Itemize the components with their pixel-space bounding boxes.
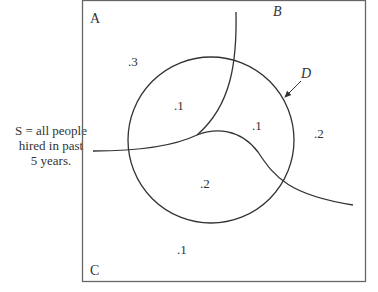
venn-diagram: A B C D .3 .1 .1 .2 .2 .1 <box>0 0 378 292</box>
boundary-right-curve <box>197 131 353 205</box>
region-c-inside: .2 <box>200 176 210 191</box>
region-c-outside: .1 <box>177 242 187 257</box>
boundary-top-curve <box>197 12 236 135</box>
sample-space-frame <box>83 1 366 282</box>
region-b-inside: .1 <box>252 118 262 133</box>
region-a-inside: .1 <box>174 98 184 113</box>
region-b-outside: .2 <box>314 126 324 141</box>
label-b: B <box>273 4 282 19</box>
region-a-outside: .3 <box>128 54 138 69</box>
label-a: A <box>90 11 101 26</box>
boundary-left-curve <box>93 135 197 151</box>
label-c: C <box>90 263 99 278</box>
circle-d <box>128 57 294 223</box>
label-d: D <box>300 66 311 81</box>
d-arrow <box>285 81 301 97</box>
